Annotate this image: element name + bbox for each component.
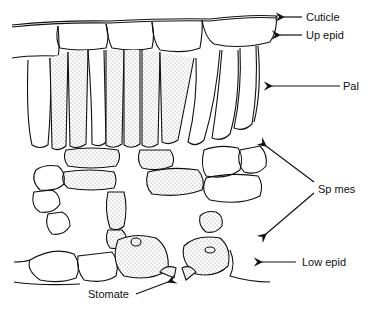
label-upper-epidermis: Up epid (306, 29, 344, 41)
palisade-layer (28, 46, 260, 150)
label-spongy-mesophyll: Sp mes (318, 183, 355, 195)
label-lower-epidermis: Low epid (302, 256, 346, 268)
cuticle (12, 15, 278, 27)
label-cuticle: Cuticle (306, 11, 340, 23)
spongy-mesophyll (14, 146, 270, 285)
label-stomate: Stomate (88, 288, 129, 300)
label-palisade: Pal (343, 80, 359, 92)
stomate-guard-cells (160, 267, 196, 280)
